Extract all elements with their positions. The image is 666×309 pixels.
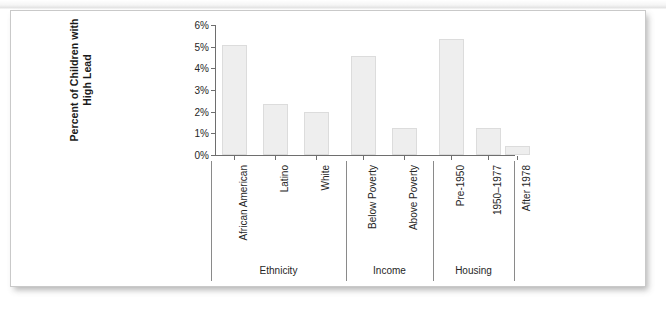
bar-chart-plot: Percent of Children with High Lead 0%1%2… (11, 11, 647, 288)
group-label: Ethnicity (229, 265, 329, 276)
y-tick-label: 3% (183, 85, 209, 96)
y-tick-label: 1% (183, 128, 209, 139)
y-axis-title-line-2: High Lead (81, 54, 94, 106)
x-tick-mark (363, 156, 364, 160)
x-axis-line (215, 155, 515, 156)
y-tick-label: 6% (183, 20, 209, 31)
y-tick-label: 5% (183, 41, 209, 52)
group-separator (211, 161, 212, 281)
bar (304, 112, 329, 155)
x-tick-mark (316, 156, 317, 160)
chart-card: Percent of Children with High Lead 0%1%2… (10, 10, 646, 287)
x-tick-mark (234, 156, 235, 160)
x-tick-mark (404, 156, 405, 160)
bar (222, 45, 247, 156)
x-tick-mark (451, 156, 452, 160)
bar (351, 56, 376, 155)
bar (505, 146, 530, 155)
x-tick-mark (275, 156, 276, 160)
x-category-label: African American (238, 165, 249, 261)
bar (439, 39, 464, 155)
group-separator (514, 161, 515, 281)
bar (263, 104, 288, 155)
x-category-label: Latino (279, 165, 290, 261)
y-axis-title: Percent of Children with High Lead (65, 0, 97, 175)
bar (476, 128, 501, 155)
y-tick-label: 4% (183, 63, 209, 74)
x-category-label: White (320, 165, 331, 261)
x-category-label: After 1978 (521, 165, 532, 261)
y-tick-label: 2% (183, 106, 209, 117)
bar (392, 128, 417, 155)
x-category-label: Above Poverty (408, 165, 419, 261)
x-category-label: 1950–1977 (492, 165, 503, 261)
x-category-label: Below Poverty (367, 165, 378, 261)
group-separator (433, 161, 434, 281)
y-axis-line (215, 25, 216, 156)
y-tick-label: 0% (183, 150, 209, 161)
x-tick-mark (517, 156, 518, 160)
x-tick-mark (488, 156, 489, 160)
scan-artifact-strip (0, 0, 666, 9)
y-axis-tick-labels: 0%1%2%3%4%5%6% (183, 11, 209, 288)
x-category-label: Pre-1950 (455, 165, 466, 261)
y-axis-title-line-1: Percent of Children with (68, 18, 81, 141)
group-label: Housing (424, 265, 524, 276)
group-separator (346, 161, 347, 281)
